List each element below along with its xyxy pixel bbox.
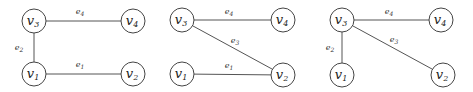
node-v3: v3 <box>170 8 194 32</box>
node-v4: v4 <box>271 8 295 32</box>
node-v2: v2 <box>121 62 145 86</box>
graph-panel-1: e4e2e1v3v4v1v2 <box>15 7 145 86</box>
edge-label-e4: e4 <box>76 7 85 17</box>
edge-label-e4: e4 <box>385 7 394 17</box>
node-v4: v4 <box>121 9 145 33</box>
node-v2: v2 <box>271 63 295 87</box>
edge-e3 <box>193 26 273 70</box>
node-v4: v4 <box>429 8 453 32</box>
edge-label-e2: e2 <box>326 43 335 53</box>
edge-e1 <box>194 74 271 75</box>
node-v3: v3 <box>330 8 354 32</box>
edge-label-e4: e4 <box>225 7 234 17</box>
node-v3: v3 <box>22 9 46 33</box>
node-v1: v1 <box>170 62 194 86</box>
edge-label-e3: e3 <box>231 36 240 46</box>
edge-label-e2: e2 <box>15 43 24 53</box>
spanning-trees-diagram: e4e2e1v3v4v1v2e4e3e1v3v4v1v2e4e2e3v3v4v1… <box>0 0 473 92</box>
graph-panel-2: e4e3e1v3v4v1v2 <box>170 7 295 87</box>
node-v2: v2 <box>431 63 455 87</box>
graph-panel-3: e4e2e3v3v4v1v2 <box>326 7 455 87</box>
edge-e3 <box>353 26 433 70</box>
edge-label-e1: e1 <box>225 61 234 71</box>
edge-label-e3: e3 <box>390 35 399 45</box>
diagram-canvas: e4e2e1v3v4v1v2e4e3e1v3v4v1v2e4e2e3v3v4v1… <box>0 0 473 92</box>
edge-label-e1: e1 <box>76 60 85 70</box>
node-v1: v1 <box>330 63 354 87</box>
node-v1: v1 <box>22 62 46 86</box>
